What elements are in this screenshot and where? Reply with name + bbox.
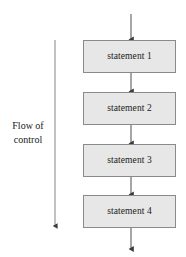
flowchart-node-statement-4[interactable]: statement 4: [83, 195, 176, 228]
flowchart-node-statement-2[interactable]: statement 2: [83, 92, 176, 125]
flowchart-node-label: statement 1: [107, 52, 152, 62]
flowchart-node-label: statement 2: [107, 104, 152, 114]
flowchart-node-label: statement 4: [107, 207, 152, 217]
flow-of-control-caption-line-1: Flow of: [4, 119, 52, 133]
flow-of-control-caption-line-2: control: [4, 133, 52, 147]
flowchart-node-label: statement 3: [107, 156, 152, 166]
flowchart-canvas: statement 1 statement 2 statement 3 stat…: [0, 0, 186, 257]
flowchart-node-statement-3[interactable]: statement 3: [83, 144, 176, 177]
flowchart-node-statement-1[interactable]: statement 1: [83, 40, 176, 73]
flow-of-control-caption: Flow of control: [4, 119, 52, 146]
